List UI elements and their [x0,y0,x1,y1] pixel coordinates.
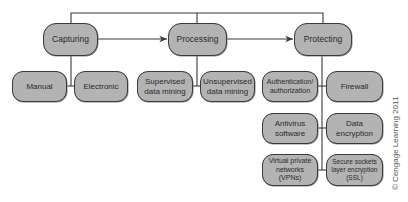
node-label: Manual [26,82,52,92]
node-protecting: Protecting [294,23,352,56]
node-label: Data encryption [329,119,380,138]
node-antivirus-software: Antivirus software [262,113,318,144]
node-label: Authentication/ authorization [265,78,315,95]
node-label: Firewall [341,82,369,92]
node-label: Capturing [52,35,89,45]
node-label: Electronic [83,82,118,92]
node-unsupervised-data-mining: Unsupervised data mining [200,71,255,102]
node-capturing: Capturing [43,23,98,56]
node-label: Secure sockets layer encryption (SSL) [329,158,380,182]
node-ssl: Secure sockets layer encryption (SSL) [326,154,383,186]
node-label: Supervised data mining [140,77,190,96]
node-label: Protecting [304,35,342,45]
node-processing: Processing [168,23,227,56]
node-data-encryption: Data encryption [326,113,383,144]
copyright-notice: © Cengage Learning 2011 [391,97,400,190]
node-label: Antivirus software [265,119,315,138]
node-authentication-authorization: Authentication/ authorization [262,71,318,102]
node-label: Unsupervised data mining [203,77,252,96]
node-label: Processing [176,35,218,45]
node-electronic: Electronic [74,71,128,102]
node-vpn: Virtual private networks (VPNs) [262,154,318,186]
node-supervised-data-mining: Supervised data mining [137,71,193,102]
node-firewall: Firewall [326,71,383,102]
node-manual: Manual [12,71,67,102]
node-label: Virtual private networks (VPNs) [265,157,315,183]
